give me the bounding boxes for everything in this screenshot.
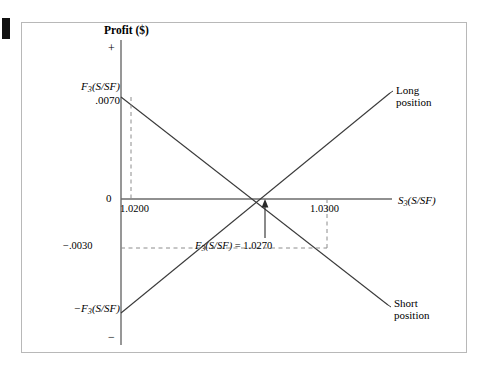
chart-title: Profit ($) [104,24,149,37]
forward-rate-negative-symbol-base: −F [74,302,88,314]
forward-rate-symbol-rest: (S/SF) [92,80,120,92]
short-position-label-line1: Short [394,297,418,309]
forward-rate-symbol-base: F [81,80,88,92]
long-position-label: Long position [396,84,431,109]
forward-rate-negative-label: −F3(S/SF) [52,302,120,316]
long-position-leader [390,91,393,93]
x-tick-label-high: 1.0300 [310,203,339,215]
long-position-label-line2: position [396,96,431,108]
x-axis-label: S3(S/SF) [398,194,436,208]
long-position-line [121,93,390,313]
x-tick-label-low: 1.0200 [120,203,149,215]
figure-screenshot: Profit ($) + − 0 F3(S/SF) .0070 −F3(S/SF… [0,0,502,374]
axis-negative-sign: − [108,331,115,344]
forward-rate-note-value: = 1.0270 [235,240,272,251]
short-position-label-line2: position [394,309,429,321]
long-position-label-line1: Long [396,84,419,96]
short-position-line [121,97,388,305]
forward-rate-positive-label: F3(S/SF) .0070 [58,80,120,107]
y-tick-label-negative-profit: −.0030 [63,240,93,252]
axis-positive-sign: + [108,42,115,55]
origin-label: 0 [106,192,112,204]
forward-rate-arrow-head [262,199,269,208]
x-axis-label-rest: (S/SF) [408,194,436,206]
forward-rate-annotation: F3(S/SF) = 1.0270 [195,240,272,254]
forward-rate-note-rest: (S/SF) [205,240,234,251]
forward-rate-positive-value: .0070 [58,94,120,106]
short-position-label: Short position [394,297,429,322]
short-position-leader [388,305,391,307]
forward-rate-negative-symbol-rest: (S/SF) [92,302,120,314]
